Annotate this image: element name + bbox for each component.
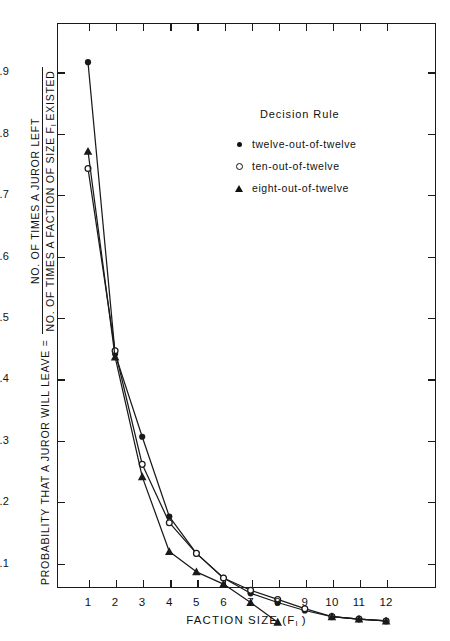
x-axis-tick — [360, 580, 361, 587]
open-circle-marker — [248, 587, 254, 593]
x-axis-tick — [252, 580, 253, 587]
x-axis-tick-label: 5 — [193, 596, 200, 608]
y-axis-tick-right — [428, 257, 435, 258]
x-axis-tick-label: 10 — [325, 596, 338, 608]
y-axis-tick-label: .7 — [0, 188, 9, 200]
x-axis-tick-label: 8 — [274, 596, 281, 608]
y-axis-tick-label: .6 — [0, 250, 9, 262]
x-axis-tick-top — [143, 24, 144, 31]
x-axis-tick-top — [306, 24, 307, 31]
x-axis-tick-top — [116, 24, 117, 31]
x-axis-tick-top — [279, 24, 280, 31]
x-axis-tick-label: 4 — [166, 596, 173, 608]
x-axis-tick-top — [197, 24, 198, 31]
legend-item-label: eight-out-of-twelve — [252, 182, 349, 194]
x-axis-tick-label: 1 — [85, 596, 92, 608]
y-axis-title-fraction: NO. OF TIMES A JUROR LEFT NO. OF TIMES A… — [29, 67, 58, 334]
x-axis-tick-label: 9 — [301, 596, 308, 608]
x-axis-tick — [170, 580, 171, 587]
x-axis-tick — [116, 580, 117, 587]
y-axis-tick-right — [428, 502, 435, 503]
legend-marker-slot — [226, 142, 252, 147]
x-axis-tick-label: 11 — [353, 596, 366, 608]
y-axis-tick-label: .8 — [0, 127, 9, 139]
y-axis-tick-right — [428, 134, 435, 135]
y-axis-title-denominator: NO. OF TIMES A FACTION OF SIZE FI EXISTE… — [43, 67, 58, 334]
y-axis-tick-label: .9 — [0, 65, 9, 77]
legend-item-label: twelve-out-of-twelve — [252, 138, 356, 150]
legend-item-twelve-out-of-twelve: twelve-out-of-twelve — [226, 133, 426, 155]
y-axis-tick — [58, 134, 65, 135]
y-axis-denominator-pre: NO. OF TIMES A FACTION OF SIZE F — [44, 126, 56, 331]
filled-circle-marker — [237, 142, 242, 147]
y-axis-tick-right — [428, 441, 435, 442]
y-axis-tick-label: .2 — [0, 495, 9, 507]
y-axis-tick-right — [428, 72, 435, 73]
x-axis-tick — [387, 580, 388, 587]
y-axis-tick — [58, 564, 65, 565]
x-axis-tick-label: 3 — [139, 596, 146, 608]
x-axis-title-post: ) — [298, 614, 307, 626]
x-axis-tick — [225, 580, 226, 587]
y-axis-tick — [58, 72, 65, 73]
filled-circle-marker — [302, 607, 308, 613]
y-axis-denominator-post: EXISTED — [44, 70, 56, 124]
legend-item-eight-out-of-twelve: eight-out-of-twelve — [226, 177, 426, 199]
legend-marker-slot — [226, 185, 252, 192]
y-axis-tick — [58, 318, 65, 319]
x-axis-tick — [89, 580, 90, 587]
legend-marker-slot — [226, 163, 252, 170]
x-axis-tick-top — [333, 24, 334, 31]
x-axis-tick — [197, 580, 198, 587]
x-axis-tick — [279, 580, 280, 587]
y-axis-tick — [58, 441, 65, 442]
y-axis-tick-right — [428, 195, 435, 196]
x-axis-title-pre: FACTION SIZE (F — [186, 614, 295, 626]
y-axis-title-numerator: NO. OF TIMES A JUROR LEFT — [29, 115, 42, 287]
x-axis-tick-label: 6 — [220, 596, 227, 608]
juror-departure-probability-chart: PROBABILITY THAT A JUROR WILL LEAVE = NO… — [0, 0, 450, 641]
x-axis-tick-top — [225, 24, 226, 31]
y-axis-tick-label: .5 — [0, 311, 9, 323]
y-axis-tick-label: .4 — [0, 372, 9, 384]
filled-triangle-marker — [235, 185, 243, 192]
legend: Decision Rule twelve-out-of-twelveten-ou… — [226, 108, 426, 199]
x-axis-tick — [143, 580, 144, 587]
y-axis-tick-label: .3 — [0, 434, 9, 446]
x-axis-tick-top — [387, 24, 388, 31]
x-axis-tick — [333, 580, 334, 587]
legend-rows: twelve-out-of-twelveten-out-of-twelveeig… — [226, 133, 426, 199]
x-axis-tick-top — [252, 24, 253, 31]
legend-title: Decision Rule — [260, 108, 426, 120]
y-axis-tick-label: .1 — [0, 557, 9, 569]
x-axis-tick-label: 7 — [247, 596, 254, 608]
y-axis-tick — [58, 257, 65, 258]
legend-item-ten-out-of-twelve: ten-out-of-twelve — [226, 155, 426, 177]
x-axis-tick-label: 2 — [112, 596, 119, 608]
y-axis-tick-right — [428, 564, 435, 565]
y-axis-tick — [58, 195, 65, 196]
y-axis-tick — [58, 379, 65, 380]
legend-item-label: ten-out-of-twelve — [252, 160, 340, 172]
x-axis-tick-label: 12 — [379, 596, 392, 608]
x-axis-tick-top — [89, 24, 90, 31]
x-axis-tick-top — [360, 24, 361, 31]
x-axis-tick-top — [170, 24, 171, 31]
open-circle-marker — [236, 163, 243, 170]
x-axis-title: FACTION SIZE (FI ) — [57, 614, 436, 628]
y-axis-tick-right — [428, 318, 435, 319]
y-axis-tick-right — [428, 379, 435, 380]
x-axis-tick — [306, 580, 307, 587]
y-axis-tick — [58, 502, 65, 503]
y-axis-title-lead: PROBABILITY THAT A JUROR WILL LEAVE = — [39, 339, 51, 585]
